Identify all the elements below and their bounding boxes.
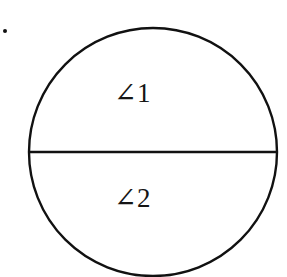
- label-angle-2: ∠2: [114, 185, 151, 212]
- geometry-figure: ∠1 ∠2: [0, 0, 287, 277]
- label-angle-1: ∠1: [114, 80, 151, 107]
- circle-diagram-svg: [0, 0, 287, 277]
